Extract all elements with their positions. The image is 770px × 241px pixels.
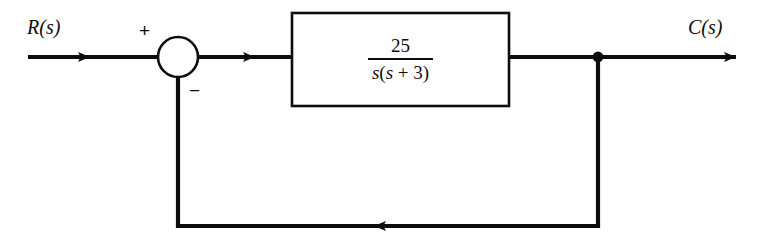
summing-junction-plus-sign: +	[139, 20, 150, 42]
transfer-function-block	[292, 13, 509, 106]
summing-junction-minus-sign: −	[189, 80, 200, 102]
block-diagram-graphics	[0, 0, 770, 241]
input-signal-label: R(s)	[27, 16, 60, 39]
block-diagram-canvas: R(s) C(s) + − 25 s(s + 3)	[0, 0, 770, 241]
output-signal-label: C(s)	[688, 16, 722, 39]
summing-junction	[158, 37, 198, 77]
